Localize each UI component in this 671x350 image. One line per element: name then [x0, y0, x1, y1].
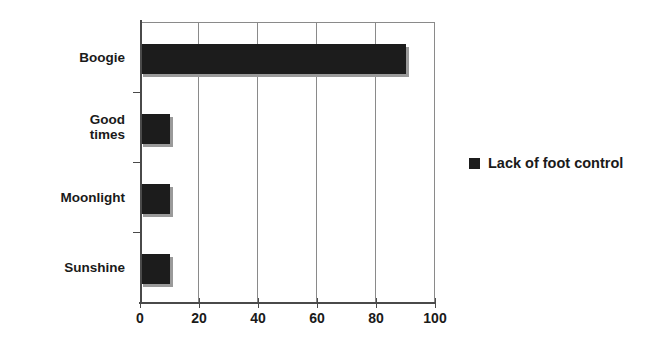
- x-tick-0: [140, 298, 141, 308]
- x-tick-80: [376, 298, 377, 308]
- x-tick-label-20: 20: [169, 310, 229, 326]
- x-tick-label-40: 40: [228, 310, 288, 326]
- x-tick-20: [199, 298, 200, 308]
- bar-boogie: [140, 44, 406, 74]
- x-tick-label-100: 100: [405, 310, 465, 326]
- x-tick-60: [317, 298, 318, 308]
- y-tick-3: [133, 232, 141, 233]
- x-tick-label-60: 60: [287, 310, 347, 326]
- legend-swatch-icon: [469, 158, 480, 169]
- bar-moonlight: [140, 184, 170, 214]
- x-tick-100: [435, 298, 436, 308]
- x-tick-label-0: 0: [110, 310, 170, 326]
- category-label-sunshine: Sunshine: [5, 260, 125, 275]
- x-tick-40: [258, 298, 259, 308]
- category-label-moonlight: Moonlight: [5, 190, 125, 205]
- legend: Lack of foot control: [469, 155, 623, 171]
- bar-good-times: [140, 114, 170, 144]
- bar-chart: Boogie Good times Moonlight Sunshine 0 2…: [0, 0, 671, 350]
- plot-area: [140, 22, 435, 302]
- category-label-good-times: Good times: [5, 112, 125, 142]
- y-tick-1: [133, 92, 141, 93]
- y-tick-2: [133, 162, 141, 163]
- x-axis-line: [139, 302, 436, 304]
- bar-sunshine: [140, 254, 170, 284]
- legend-label: Lack of foot control: [488, 155, 623, 171]
- x-tick-label-80: 80: [346, 310, 406, 326]
- category-label-boogie: Boogie: [5, 50, 125, 65]
